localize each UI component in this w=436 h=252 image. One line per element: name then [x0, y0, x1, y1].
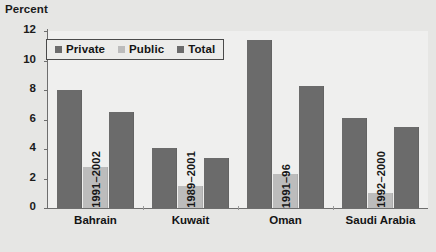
y-tick-label: 8 — [30, 82, 36, 94]
bar-private-bahrain — [57, 90, 83, 208]
legend-swatch-icon — [55, 46, 62, 53]
x-axis-separator — [238, 206, 239, 210]
legend-label: Public — [129, 43, 164, 55]
bar-public-oman — [273, 174, 299, 208]
y-tick-label: 0 — [30, 200, 36, 212]
y-tick-label: 4 — [30, 141, 36, 153]
bar-public-saudi-arabia — [368, 193, 394, 208]
y-tick-label: 6 — [30, 112, 36, 124]
bar-total-oman — [299, 86, 325, 208]
legend-label: Private — [66, 43, 105, 55]
y-tick-label: 12 — [23, 23, 36, 35]
bar-private-saudi-arabia — [342, 118, 368, 208]
x-category-label-bahrain: Bahrain — [48, 214, 143, 226]
bar-private-oman — [247, 40, 273, 208]
x-category-label-oman: Oman — [238, 214, 333, 226]
y-axis-title: Percent — [5, 3, 48, 15]
bar-public-bahrain — [83, 167, 109, 208]
chart-legend: PrivatePublicTotal — [46, 39, 224, 60]
legend-swatch-icon — [118, 46, 125, 53]
x-axis-separator — [143, 206, 144, 210]
x-category-label-kuwait: Kuwait — [143, 214, 238, 226]
bar-total-bahrain — [109, 112, 135, 208]
legend-item-private[interactable]: Private — [55, 43, 105, 55]
legend-item-public[interactable]: Public — [118, 43, 164, 55]
x-axis-separator — [333, 206, 334, 210]
y-tick-label: 2 — [30, 171, 36, 183]
legend-swatch-icon — [177, 46, 184, 53]
legend-item-total[interactable]: Total — [177, 43, 215, 55]
y-tick-label: 10 — [23, 53, 36, 65]
bar-public-kuwait — [178, 186, 204, 208]
chart-figure: Percent 024681012 1991–20021989–20011991… — [0, 0, 436, 252]
bar-private-kuwait — [152, 148, 178, 208]
bar-total-saudi-arabia — [394, 127, 420, 208]
x-category-label-saudi-arabia: Saudi Arabia — [333, 214, 428, 226]
legend-label: Total — [188, 43, 215, 55]
bar-total-kuwait — [204, 158, 230, 208]
y-tick-mark — [44, 208, 48, 209]
